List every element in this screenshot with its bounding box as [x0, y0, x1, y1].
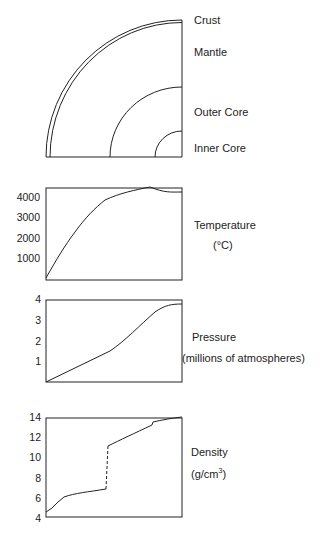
pressure-tick: 3 — [5, 314, 41, 326]
density-tick: 12 — [5, 431, 41, 443]
temperature-title: Temperature — [194, 219, 256, 231]
density-tick: 6 — [5, 492, 41, 504]
pressure-curve — [46, 304, 182, 382]
density-title: Density — [191, 446, 228, 458]
temperature-tick: 1000 — [4, 252, 40, 264]
outer-core-arc — [110, 87, 182, 157]
density-tick: 4 — [5, 512, 41, 524]
label-outer-core: Outer Core — [194, 106, 248, 118]
pressure-tick: 2 — [5, 335, 41, 347]
density-curve-mantle — [46, 489, 106, 512]
pressure-tick: 4 — [5, 293, 41, 305]
label-crust: Crust — [194, 14, 220, 26]
temperature-tick: 3000 — [4, 211, 40, 223]
temperature-tick: 4000 — [4, 191, 40, 203]
label-mantle: Mantle — [194, 46, 227, 58]
density-tick: 8 — [5, 472, 41, 484]
temperature-chart-frame — [46, 188, 182, 280]
earth-outer-arc — [46, 20, 182, 157]
density-curve-core — [108, 417, 182, 446]
density-unit-close: ) — [222, 468, 226, 480]
density-tick: 14 — [5, 411, 41, 423]
pressure-tick: 1 — [5, 355, 41, 367]
density-discontinuity — [106, 446, 108, 489]
diagram-canvas — [0, 0, 321, 537]
density-unit-base: (g/cm — [191, 468, 219, 480]
pressure-chart-frame — [46, 300, 182, 382]
temperature-unit: (°C) — [213, 239, 233, 251]
pressure-title: Pressure — [192, 331, 236, 343]
temperature-curve — [46, 187, 182, 278]
pressure-unit: (millions of atmospheres) — [182, 352, 305, 364]
density-chart-frame — [46, 418, 182, 517]
temperature-tick: 2000 — [4, 232, 40, 244]
density-tick: 10 — [5, 451, 41, 463]
label-inner-core: Inner Core — [194, 142, 246, 154]
density-unit: (g/cm3) — [191, 467, 226, 480]
inner-core-arc — [155, 131, 182, 157]
